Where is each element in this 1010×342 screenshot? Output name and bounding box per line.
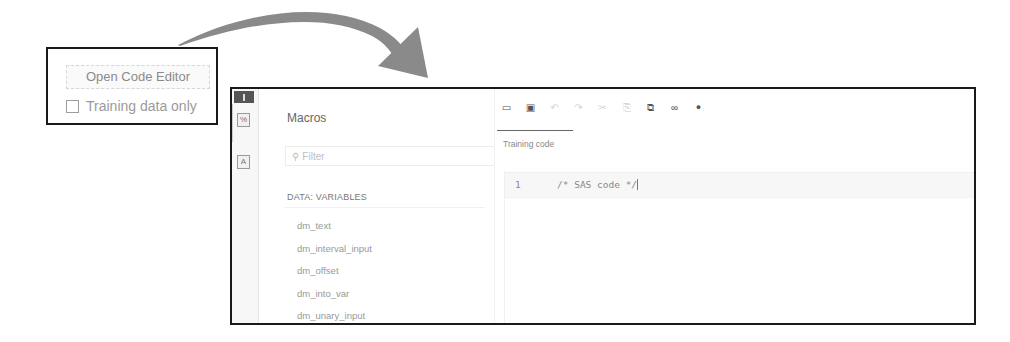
run-icon[interactable]: ● bbox=[693, 102, 704, 113]
tab-training-code[interactable]: Training code bbox=[503, 139, 554, 149]
variable-list: dm_text dm_interval_input dm_offset dm_i… bbox=[297, 219, 372, 325]
section-header-data-variables: DATA: VARIABLES bbox=[287, 192, 367, 202]
list-item[interactable]: dm_text bbox=[297, 219, 372, 242]
code-text: /* SAS code */ bbox=[557, 179, 638, 190]
snippets-panel-icon[interactable]: A bbox=[237, 155, 250, 169]
undo-icon[interactable]: ↶ bbox=[549, 102, 560, 113]
section-divider bbox=[285, 207, 485, 208]
code-line-1[interactable]: 1 /* SAS code */ bbox=[505, 172, 974, 198]
macros-title: Macros bbox=[287, 111, 326, 125]
training-data-only-checkbox[interactable] bbox=[66, 100, 79, 113]
filter-placeholder: Filter bbox=[302, 151, 324, 162]
line-number: 1 bbox=[515, 179, 521, 190]
macros-panel-icon[interactable]: % bbox=[237, 113, 250, 127]
code-content: /* SAS code */ bbox=[557, 179, 637, 190]
macros-panel: Macros « ⚲ Filter DATA: VARIABLES dm_tex… bbox=[259, 89, 492, 323]
icon-rail: % A bbox=[232, 89, 259, 323]
text-caret bbox=[637, 179, 638, 190]
list-item[interactable]: dm_interval_input bbox=[297, 242, 372, 265]
training-data-only-label: Training data only bbox=[86, 98, 197, 114]
editor-toolbar: ▭ ▣ ↶ ↷ ✂ ⎘ ⧉ ∞ ● bbox=[501, 99, 717, 115]
callout-box: Open Code Editor Training data only bbox=[46, 47, 218, 125]
find-icon[interactable]: ∞ bbox=[669, 102, 680, 113]
list-item[interactable]: dm_unary_input bbox=[297, 309, 372, 325]
list-item[interactable]: dm_offset bbox=[297, 264, 372, 287]
filter-input[interactable]: ⚲ Filter bbox=[285, 146, 511, 166]
copy-icon[interactable]: ⎘ bbox=[621, 102, 632, 113]
open-folder-icon[interactable]: ▭ bbox=[501, 102, 512, 113]
search-icon: ⚲ bbox=[292, 151, 299, 162]
rail-pin-icon[interactable] bbox=[234, 91, 254, 103]
code-editor-window: % A Macros « ⚲ Filter DATA: VARIABLES dm… bbox=[230, 87, 976, 325]
code-area: ▭ ▣ ↶ ↷ ✂ ⎘ ⧉ ∞ ● Training code 1 /* SAS… bbox=[494, 89, 974, 323]
save-icon[interactable]: ▣ bbox=[525, 102, 536, 113]
active-tab-indicator bbox=[497, 130, 573, 131]
list-item[interactable]: dm_into_var bbox=[297, 287, 372, 310]
open-code-editor-button[interactable]: Open Code Editor bbox=[66, 65, 210, 89]
training-data-only-checkbox-row[interactable]: Training data only bbox=[66, 95, 197, 117]
redo-icon[interactable]: ↷ bbox=[573, 102, 584, 113]
paste-icon[interactable]: ⧉ bbox=[645, 102, 656, 113]
cut-icon[interactable]: ✂ bbox=[597, 102, 608, 113]
